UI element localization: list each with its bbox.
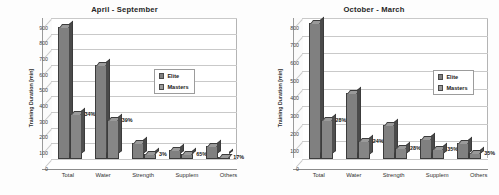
bar-percent-label: 24% bbox=[373, 138, 384, 144]
x-axis-label: Strength bbox=[383, 172, 405, 178]
bar-masters: 24% bbox=[358, 141, 370, 160]
legend-swatch-icon bbox=[438, 85, 443, 90]
x-axis-label: Water bbox=[95, 172, 110, 178]
legend-label: Elite bbox=[167, 73, 179, 79]
x-axis-label: Strength bbox=[132, 172, 154, 178]
gridline: 0 bbox=[51, 159, 237, 160]
bar-percent-label: 34% bbox=[85, 111, 96, 117]
y-tick-label: 200 bbox=[39, 134, 48, 140]
x-axis-label: Total bbox=[313, 172, 325, 178]
bar-side-face bbox=[217, 139, 221, 154]
chart-panel-april-september: April - September Training Duration [min… bbox=[0, 0, 249, 195]
bar-elite bbox=[206, 146, 218, 159]
x-axis-label: Others bbox=[220, 172, 237, 178]
y-tick-label: 800 bbox=[39, 40, 48, 46]
legend-item: Elite bbox=[159, 73, 189, 79]
chart-legend: EliteMasters bbox=[154, 69, 195, 94]
x-axis-label: Water bbox=[346, 172, 361, 178]
bar-percent-label: 39% bbox=[122, 117, 133, 123]
bar-groups: 34%39%3%65%17% bbox=[51, 18, 237, 159]
legend-item: Elite bbox=[438, 74, 468, 80]
bar-group: 28% bbox=[383, 18, 407, 159]
chart-legend: EliteMasters bbox=[433, 70, 474, 95]
legend-label: Elite bbox=[446, 74, 458, 80]
y-tick-label: 300 bbox=[290, 113, 299, 119]
legend-swatch-icon bbox=[159, 73, 164, 78]
bar-elite bbox=[169, 150, 181, 159]
bar-elite bbox=[420, 139, 432, 159]
y-tick-label: 700 bbox=[290, 42, 299, 48]
bar-percent-label: 35% bbox=[447, 146, 458, 152]
bar-group: 3% bbox=[132, 18, 156, 159]
bar-masters: 35% bbox=[469, 153, 481, 159]
x-axis-label: Others bbox=[470, 172, 487, 178]
x-axis-label: Supplem bbox=[176, 172, 199, 178]
x-axis-label: Supplem bbox=[426, 172, 449, 178]
y-axis-title: Training Duration [min] bbox=[277, 68, 283, 126]
gridline: 0 bbox=[302, 159, 488, 160]
chart-panel-october-march: October - March Training Duration [min] … bbox=[249, 0, 499, 195]
bar-group: 28% bbox=[309, 18, 333, 159]
y-tick-label: 600 bbox=[290, 60, 299, 66]
legend-swatch-icon bbox=[438, 74, 443, 79]
y-tick-label: 200 bbox=[290, 131, 299, 137]
bar-elite bbox=[309, 23, 321, 159]
plot-area: 9008007006005004003002001000 34%39%3%65%… bbox=[42, 18, 238, 170]
bar-masters: 28% bbox=[395, 148, 407, 159]
y-tick-label: 700 bbox=[39, 56, 48, 62]
chart-title: October - March bbox=[249, 5, 499, 14]
y-tick-label: 500 bbox=[290, 78, 299, 84]
x-axis-label: Total bbox=[62, 172, 74, 178]
bar-masters: 39% bbox=[107, 120, 119, 159]
dual-bar-chart-figure: April - September Training Duration [min… bbox=[0, 0, 499, 195]
y-tick-label: 100 bbox=[290, 148, 299, 154]
y-tick-label: 400 bbox=[290, 95, 299, 101]
bar-percent-label: 17% bbox=[233, 154, 244, 160]
bar-masters: 17% bbox=[218, 157, 230, 159]
bar-percent-label: 3% bbox=[159, 151, 167, 157]
bar-masters: 34% bbox=[70, 114, 82, 159]
y-axis-title: Training Duration [min] bbox=[28, 68, 34, 126]
bar-elite bbox=[95, 65, 107, 159]
y-tick-label: 500 bbox=[39, 87, 48, 93]
bar-elite bbox=[457, 143, 469, 159]
bar-group: 17% bbox=[206, 18, 230, 159]
bar-group: 24% bbox=[346, 18, 370, 159]
x-axis-labels: TotalWaterStrengthSupplemOthers bbox=[302, 172, 498, 178]
legend-item: Masters bbox=[438, 85, 468, 91]
bar-elite bbox=[383, 125, 395, 159]
y-tick-label: 0 bbox=[296, 166, 299, 172]
legend-label: Masters bbox=[167, 84, 188, 90]
chart-title: April - September bbox=[0, 5, 249, 14]
bar-percent-label: 35% bbox=[484, 150, 495, 156]
legend-label: Masters bbox=[446, 85, 467, 91]
legend-swatch-icon bbox=[159, 84, 164, 89]
plot-area: 8007006005004003002001000 28%24%28%35%35… bbox=[293, 18, 489, 170]
bar-masters: 65% bbox=[181, 154, 193, 159]
bar-percent-label: 65% bbox=[196, 151, 207, 157]
bar-group: 39% bbox=[95, 18, 119, 159]
bar-elite bbox=[132, 143, 144, 159]
bar-percent-label: 28% bbox=[336, 117, 347, 123]
bar-masters: 3% bbox=[144, 154, 156, 159]
bar-percent-label: 28% bbox=[410, 145, 421, 151]
bar-elite bbox=[58, 27, 70, 159]
y-tick-label: 300 bbox=[39, 119, 48, 125]
y-tick-label: 0 bbox=[45, 166, 48, 172]
y-tick-label: 600 bbox=[39, 72, 48, 78]
x-axis-labels: TotalWaterStrengthSupplemOthers bbox=[51, 172, 248, 178]
legend-item: Masters bbox=[159, 84, 189, 90]
y-tick-label: 800 bbox=[290, 25, 299, 31]
y-tick-label: 100 bbox=[39, 150, 48, 156]
y-tick-label: 900 bbox=[39, 25, 48, 31]
y-tick-label: 400 bbox=[39, 103, 48, 109]
bar-elite bbox=[346, 93, 358, 159]
bar-masters: 28% bbox=[321, 120, 333, 159]
bar-top-face bbox=[219, 154, 232, 158]
bar-masters: 35% bbox=[432, 149, 444, 159]
bar-group: 34% bbox=[58, 18, 82, 159]
